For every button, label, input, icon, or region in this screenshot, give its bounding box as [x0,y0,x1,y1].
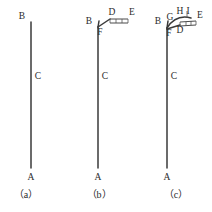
panel-a-caption: （a） [14,189,38,200]
panel-c-label-arc-left: G [167,12,174,22]
panel-b-label-middle: C [102,71,108,81]
panel-c-label-bar-far: E [197,10,203,20]
panel-c-label-bottom: A [164,172,171,182]
panel-c-caption: （c） [164,189,188,200]
panel-a-label-middle: C [35,71,41,81]
panel-a-label-bottom: A [28,172,35,182]
panel-b-label-bottom: A [95,172,102,182]
panel-b-branch-line [98,19,110,27]
panel-b-label-bar-near: D [109,7,116,17]
panel-c-label-bar-near: D [177,25,184,35]
panel-b: B F D E C A （b） [86,7,135,200]
panel-b-caption: （b） [87,189,112,200]
panel-b-label-top: B [86,16,92,26]
panel-a-label-top: B [19,11,25,21]
panel-c-label-bend: F [166,28,171,38]
panel-c-label-top: B [155,16,161,26]
panel-c-label-arc-right: I [186,6,189,16]
figure-root: B C A （a） B F D E C A （b） [0,0,212,212]
three-panel-line-diagram: B C A （a） B F D E C A （b） [0,0,212,212]
panel-b-label-bar-far: E [129,7,135,17]
panel-c-label-middle: C [171,71,177,81]
panel-c-label-arc-mid: H [177,6,184,16]
panel-a: B C A （a） [14,11,41,200]
panel-c: B G H I E F D C A （c） [155,6,203,200]
panel-b-label-bend: F [97,27,102,37]
panel-c-bar-top-edge [180,21,196,22]
